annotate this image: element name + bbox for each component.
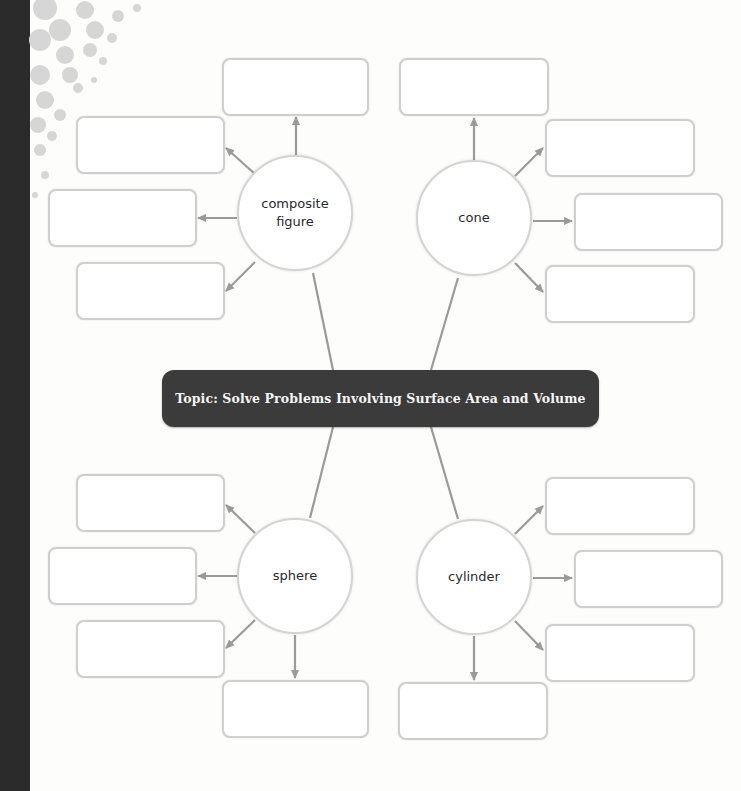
arrow-cone-upper-right xyxy=(515,148,543,176)
node-composite-figure: composite figure xyxy=(237,155,353,271)
arrow-composite-upper-left xyxy=(226,148,255,174)
link-topic-cylinder xyxy=(431,427,458,519)
topic-banner: Topic: Solve Problems Involving Surface … xyxy=(162,370,599,427)
arrow-cylinder-lower-right xyxy=(515,621,543,650)
cylinder-answer-box-lower-right[interactable] xyxy=(545,624,695,682)
composite-answer-box-top[interactable] xyxy=(222,58,369,116)
arrow-cylinder-upper-right xyxy=(515,506,543,534)
sphere-answer-box-upper-left[interactable] xyxy=(76,474,225,532)
arrow-cone-lower-right xyxy=(515,263,543,292)
node-label: cone xyxy=(434,209,514,227)
cone-answer-box-upper-right[interactable] xyxy=(545,119,695,177)
composite-answer-box-lower-left[interactable] xyxy=(76,262,225,320)
arrow-composite-lower-left xyxy=(226,262,255,291)
arrow-sphere-upper-left xyxy=(226,505,255,533)
node-cylinder: cylinder xyxy=(416,519,532,635)
link-topic-cone xyxy=(431,278,458,370)
link-topic-composite xyxy=(313,273,333,370)
node-label: cylinder xyxy=(434,568,514,586)
cone-answer-box-right[interactable] xyxy=(574,193,723,251)
node-cone: cone xyxy=(416,160,532,276)
cone-answer-box-lower-right[interactable] xyxy=(545,265,695,323)
arrow-sphere-lower-left xyxy=(226,620,255,648)
link-topic-sphere xyxy=(310,427,333,518)
composite-answer-box-left[interactable] xyxy=(48,189,197,247)
sphere-answer-box-left[interactable] xyxy=(48,547,197,605)
composite-answer-box-upper-left[interactable] xyxy=(76,116,225,174)
cylinder-answer-box-right[interactable] xyxy=(574,550,723,608)
node-label: composite figure xyxy=(255,195,335,230)
node-label: sphere xyxy=(255,567,335,585)
sphere-answer-box-bottom[interactable] xyxy=(222,680,369,738)
cylinder-answer-box-bottom[interactable] xyxy=(398,682,548,740)
cylinder-answer-box-upper-right[interactable] xyxy=(545,477,695,535)
node-sphere: sphere xyxy=(237,518,353,634)
topic-title: Topic: Solve Problems Involving Surface … xyxy=(175,391,585,406)
cone-answer-box-top[interactable] xyxy=(399,58,549,116)
sphere-answer-box-lower-left[interactable] xyxy=(76,620,225,678)
